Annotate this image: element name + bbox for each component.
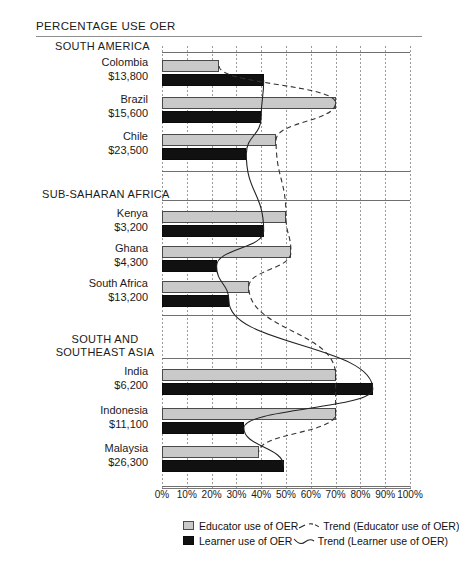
country-name: Indonesia — [0, 404, 148, 418]
legend-row-learner: Learner use of OER Trend (Learner use of… — [183, 533, 448, 548]
country-name: Malaysia — [0, 442, 148, 456]
country-gni-value: $6,200 — [0, 379, 148, 393]
country-name: Colombia — [0, 56, 148, 70]
row-label-brazil: Brazil$15,600 — [0, 93, 148, 120]
x-tick-100pct: 100% — [397, 489, 423, 500]
x-tick-80pct: 80% — [350, 489, 370, 500]
country-gni-value: $3,200 — [0, 221, 148, 235]
legend-label-educator: Educator use of OER — [199, 520, 298, 532]
region-label-1: SUB-SAHARAN AFRICA — [42, 188, 170, 200]
legend-row-educator: Educator use of OER Trend (Educator use … — [183, 518, 448, 533]
x-tick-10pct: 10% — [177, 489, 197, 500]
country-name: India — [0, 365, 148, 379]
legend-label-educator-trend: Trend (Educator use of OER) — [323, 520, 459, 532]
chart-legend: Educator use of OER Trend (Educator use … — [183, 518, 448, 548]
region-label-line2: SOUTHEAST ASIA — [55, 346, 155, 359]
x-axis-tick-labels: 0%10%20%30%40%50%60%70%80%90%100% — [0, 489, 458, 505]
trend-lines-layer — [162, 46, 410, 488]
title-divider — [36, 36, 422, 37]
x-tick-70pct: 70% — [326, 489, 346, 500]
x-tick-50pct: 50% — [276, 489, 296, 500]
x-tick-90pct: 90% — [375, 489, 395, 500]
trend-line-educator — [219, 66, 336, 452]
country-name: South Africa — [0, 277, 148, 291]
country-gni-value: $26,300 — [0, 456, 148, 470]
gridline-100pct — [410, 46, 411, 488]
x-tick-60pct: 60% — [301, 489, 321, 500]
solid-trend-line-icon — [293, 535, 315, 547]
country-gni-value: $13,200 — [0, 291, 148, 305]
row-label-south-africa: South Africa$13,200 — [0, 277, 148, 304]
country-gni-value: $15,600 — [0, 107, 148, 121]
x-tick-40pct: 40% — [251, 489, 271, 500]
x-tick-0pct: 0% — [155, 489, 169, 500]
row-label-chile: Chile$23,500 — [0, 130, 148, 157]
row-label-colombia: Colombia$13,800 — [0, 56, 148, 83]
region-label-2: SOUTH ANDSOUTHEAST ASIA — [55, 333, 155, 359]
country-gni-value: $11,100 — [0, 418, 148, 432]
country-name: Ghana — [0, 242, 148, 256]
row-label-ghana: Ghana$4,300 — [0, 242, 148, 269]
country-gni-value: $4,300 — [0, 256, 148, 270]
legend-label-learner-trend: Trend (Learner use of OER) — [318, 535, 448, 547]
country-gni-value: $13,800 — [0, 70, 148, 84]
plot-area — [162, 46, 410, 488]
x-tick-20pct: 20% — [202, 489, 222, 500]
row-label-malaysia: Malaysia$26,300 — [0, 442, 148, 469]
row-label-indonesia: Indonesia$11,100 — [0, 404, 148, 431]
learner-swatch-icon — [183, 536, 194, 545]
legend-label-learner: Learner use of OER — [199, 535, 293, 547]
country-name: Kenya — [0, 207, 148, 221]
x-tick-30pct: 30% — [226, 489, 246, 500]
country-gni-value: $23,500 — [0, 144, 148, 158]
country-name: Chile — [0, 130, 148, 144]
region-label-line1: SOUTH AND — [55, 333, 155, 346]
dashed-trend-line-icon — [298, 520, 320, 532]
row-label-india: India$6,200 — [0, 365, 148, 392]
trend-line-learner — [217, 80, 373, 466]
page-title: PERCENTAGE USE OER — [36, 20, 176, 32]
educator-swatch-icon — [183, 521, 194, 530]
row-label-kenya: Kenya$3,200 — [0, 207, 148, 234]
country-name: Brazil — [0, 93, 148, 107]
region-label-0: SOUTH AMERICA — [55, 40, 150, 52]
